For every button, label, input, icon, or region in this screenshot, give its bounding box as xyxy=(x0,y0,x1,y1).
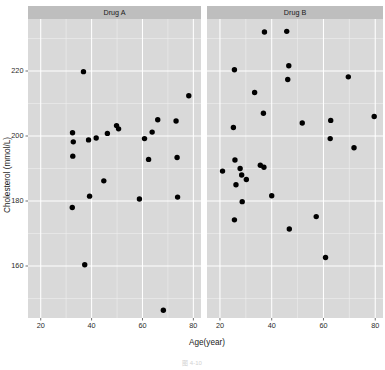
y-axis-title: Cholesterol (mmol/L) xyxy=(3,137,12,213)
data-point xyxy=(161,308,166,313)
x-tick-label: 40 xyxy=(268,321,276,330)
data-point xyxy=(232,157,237,162)
scatter-plot-figure: Drug ADrug B 204060802040608016018020022… xyxy=(0,0,385,370)
data-point xyxy=(70,153,75,158)
facet-panel-drug-b: Drug B xyxy=(207,6,383,318)
data-point xyxy=(300,120,305,125)
data-point xyxy=(285,77,290,82)
data-point xyxy=(137,196,142,201)
data-point xyxy=(261,165,266,170)
data-point xyxy=(101,178,106,183)
data-point xyxy=(262,29,267,34)
data-point xyxy=(239,172,244,177)
data-point xyxy=(71,139,76,144)
facet-strip-label: Drug B xyxy=(284,8,307,17)
data-point xyxy=(328,136,333,141)
x-tick-label: 40 xyxy=(88,321,96,330)
data-point xyxy=(269,193,274,198)
data-point xyxy=(105,131,110,136)
data-point xyxy=(351,145,356,150)
data-point xyxy=(314,214,319,219)
data-point xyxy=(232,217,237,222)
data-point xyxy=(174,155,179,160)
x-tick-label: 80 xyxy=(189,321,197,330)
data-point xyxy=(82,262,87,267)
facet-strip-label: Drug A xyxy=(104,8,126,17)
data-point xyxy=(175,194,180,199)
data-point xyxy=(372,114,377,119)
x-tick-label: 20 xyxy=(216,321,224,330)
data-point xyxy=(231,125,236,130)
x-tick-label: 60 xyxy=(319,321,327,330)
data-point xyxy=(233,182,238,187)
plot-canvas: Drug ADrug B 204060802040608016018020022… xyxy=(0,0,385,370)
data-point xyxy=(284,29,289,34)
data-point xyxy=(142,136,147,141)
figure-caption: 图 4-10 xyxy=(182,360,202,367)
data-point xyxy=(237,166,242,171)
data-point xyxy=(186,93,191,98)
data-point xyxy=(323,255,328,260)
data-point xyxy=(252,90,257,95)
data-point xyxy=(328,118,333,123)
x-tick-label: 60 xyxy=(138,321,146,330)
x-tick-label: 20 xyxy=(37,321,45,330)
data-point xyxy=(146,157,151,162)
facet-panel-drug-a: Drug A xyxy=(28,6,201,318)
data-point xyxy=(346,74,351,79)
x-tick-label: 80 xyxy=(371,321,379,330)
data-point xyxy=(220,168,225,173)
data-point xyxy=(116,126,121,131)
x-axis-title: Age(year) xyxy=(189,338,225,347)
data-point xyxy=(286,63,291,68)
y-tick-label: 160 xyxy=(11,261,23,270)
y-tick-label: 180 xyxy=(11,196,23,205)
data-point xyxy=(155,117,160,122)
data-point xyxy=(81,69,86,74)
data-point xyxy=(232,67,237,72)
y-tick-label: 200 xyxy=(11,131,23,140)
y-tick-label: 220 xyxy=(11,66,23,75)
data-point xyxy=(173,118,178,123)
data-point xyxy=(86,137,91,142)
data-point xyxy=(287,226,292,231)
data-point xyxy=(261,111,266,116)
data-point xyxy=(240,199,245,204)
data-point xyxy=(93,135,98,140)
data-point xyxy=(70,130,75,135)
data-point xyxy=(149,129,154,134)
data-point xyxy=(244,177,249,182)
data-point xyxy=(70,205,75,210)
data-point xyxy=(87,193,92,198)
